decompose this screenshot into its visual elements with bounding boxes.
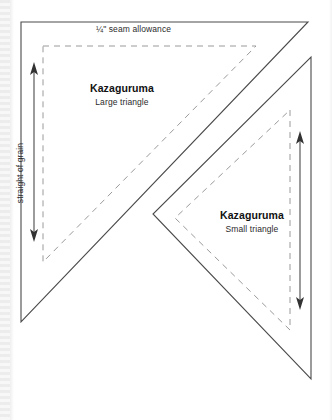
large-triangle-cut-line [21,22,308,322]
large-triangle-labels: Kazaguruma Large triangle [68,82,176,107]
large-triangle-grain-arrow [30,62,38,242]
large-triangle-title: Kazaguruma [68,82,176,94]
small-triangle-subtitle: Small triangle [200,224,304,234]
small-triangle-labels: Kazaguruma Small triangle [200,209,304,234]
straight-of-grain-label: straight of grain [15,128,25,218]
small-triangle-title: Kazaguruma [200,209,304,221]
seam-allowance-label: ¼" seam allowance [96,24,171,34]
large-triangle-subtitle: Large triangle [68,97,176,107]
pattern-sheet: ¼" seam allowance straight of grain Kaza… [0,0,332,420]
